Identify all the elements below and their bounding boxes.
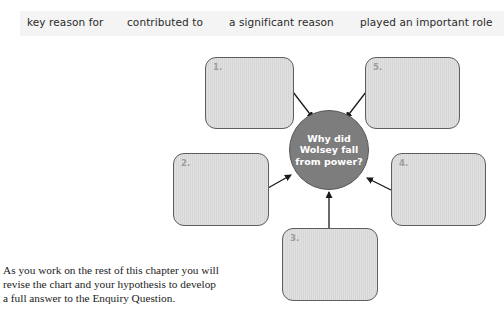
central-question-line-2: Wolsey fall [294, 144, 364, 156]
box-number-5: 5. [373, 62, 382, 72]
box-number-4: 4. [399, 158, 408, 168]
reason-box-2[interactable]: 2. [173, 153, 269, 226]
box-number-1: 1. [213, 62, 222, 72]
box-number-3: 3. [290, 233, 299, 243]
central-question-circle: Why did Wolsey fall from power? [289, 110, 369, 190]
central-question-line-3: from power? [294, 156, 364, 168]
arrow-2-icon [268, 175, 291, 188]
arrow-4-icon [367, 178, 391, 190]
arrow-5-icon [346, 92, 366, 118]
reason-box-5[interactable]: 5. [365, 57, 460, 129]
instruction-line-2: revise the chart and your hypothesis to … [3, 277, 273, 291]
central-question-text: Why did Wolsey fall from power? [294, 133, 364, 168]
reason-box-1[interactable]: 1. [205, 57, 294, 129]
instruction-paragraph: As you work on the rest of this chapter … [3, 263, 273, 305]
box-number-2: 2. [181, 158, 190, 168]
central-question-line-1: Why did [294, 133, 364, 145]
reason-box-3[interactable]: 3. [282, 228, 378, 301]
instruction-line-3: a full answer to the Enquiry Question. [3, 291, 273, 305]
instruction-line-1: As you work on the rest of this chapter … [3, 263, 273, 277]
reason-box-4[interactable]: 4. [391, 153, 486, 226]
